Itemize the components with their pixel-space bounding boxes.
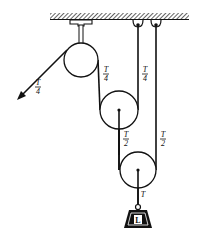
ceiling-hook-left [133, 20, 143, 27]
svg-text:T: T [124, 130, 129, 139]
ceiling-hook-right [151, 20, 161, 27]
svg-text:T: T [143, 65, 148, 74]
svg-text:T: T [161, 130, 166, 139]
ceiling [50, 13, 189, 20]
pulley-diagram: L T 4 T 4 T 4 T 2 T 2 T [0, 0, 197, 240]
svg-text:T: T [104, 65, 109, 74]
svg-text:2: 2 [124, 139, 128, 148]
label-pulley2-right: T 4 [142, 65, 148, 83]
svg-text:4: 4 [104, 74, 108, 83]
label-pulley1-right: T 4 [103, 65, 109, 83]
label-pulley3-right: T 2 [160, 130, 166, 148]
svg-text:T: T [141, 190, 146, 199]
svg-text:T: T [36, 78, 41, 87]
load-weight: L [124, 205, 152, 229]
label-load-tension: T [141, 190, 146, 199]
label-free-end: T 4 [35, 78, 41, 96]
load-label: L [135, 216, 140, 225]
svg-text:4: 4 [143, 74, 147, 83]
label-pulley2-axle: T 2 [123, 130, 129, 148]
svg-text:2: 2 [161, 139, 165, 148]
svg-text:4: 4 [36, 87, 40, 96]
pulley-fixed [64, 43, 98, 77]
